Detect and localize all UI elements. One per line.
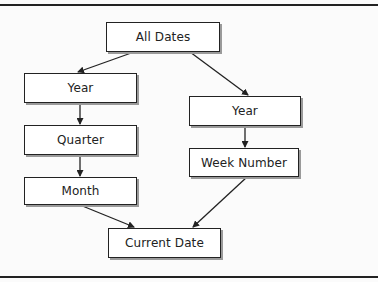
node-label: Year xyxy=(232,104,258,118)
node-label: Week Number xyxy=(201,156,287,170)
node-quarter: Quarter xyxy=(24,125,137,155)
node-label: Year xyxy=(68,81,94,95)
edge-month-currentdate xyxy=(80,205,134,227)
node-current-date: Current Date xyxy=(108,228,221,258)
node-all-dates: All Dates xyxy=(106,22,220,52)
node-year-left: Year xyxy=(24,73,137,103)
node-label: Current Date xyxy=(125,236,204,250)
edge-weeknumber-currentdate xyxy=(193,177,247,227)
edge-alldates-yearright xyxy=(190,52,248,95)
node-year-right: Year xyxy=(189,96,301,126)
node-month: Month xyxy=(24,177,137,205)
node-label: All Dates xyxy=(136,30,191,44)
edge-alldates-yearleft xyxy=(78,52,134,72)
node-label: Month xyxy=(61,184,99,198)
node-week-number: Week Number xyxy=(189,148,299,177)
node-label: Quarter xyxy=(57,133,104,147)
